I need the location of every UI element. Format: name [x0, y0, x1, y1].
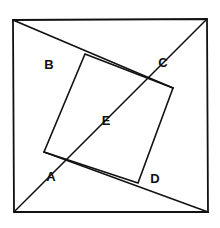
region-label-c: C	[158, 56, 167, 69]
region-label-b: B	[44, 58, 53, 71]
region-label-d: D	[150, 172, 159, 185]
region-label-a: A	[46, 170, 55, 183]
geometry-figure: A B C D E	[0, 0, 220, 228]
region-label-e: E	[102, 114, 111, 127]
